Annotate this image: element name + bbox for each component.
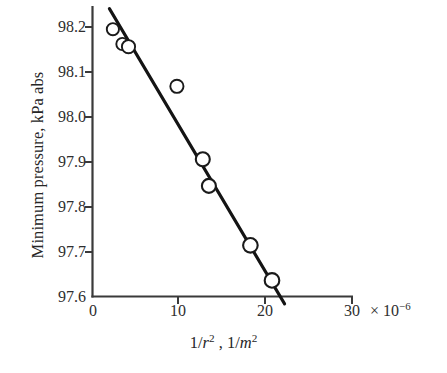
figure-minimum-pressure-chart: Minimum pressure, kPa abs 98.2 98.1 98.0… — [0, 0, 447, 373]
data-point — [202, 179, 216, 193]
x-axis-ticks — [178, 297, 352, 305]
data-point-group — [107, 23, 280, 288]
data-point — [196, 152, 210, 166]
data-point — [122, 40, 135, 53]
data-point — [243, 238, 258, 253]
data-point — [265, 273, 280, 288]
data-point — [107, 23, 119, 35]
y-axis-ticks — [85, 27, 93, 252]
plot-area — [0, 0, 447, 373]
data-point — [170, 80, 183, 93]
